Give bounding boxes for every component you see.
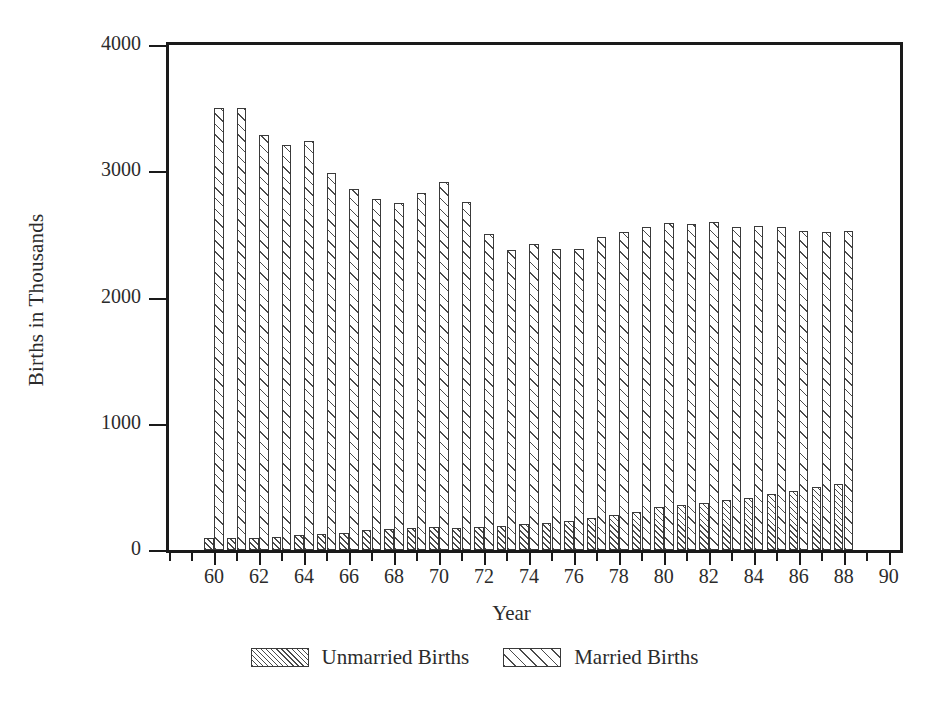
bar-unmarried-62 [249, 538, 258, 550]
x-tick-88 [844, 552, 846, 565]
bar-married-88 [844, 231, 853, 550]
x-tick-78 [619, 552, 621, 565]
bar-married-70 [439, 182, 448, 550]
x-tick-58 [169, 552, 171, 561]
bar-unmarried-75 [542, 523, 551, 550]
x-tick-63 [281, 552, 283, 561]
legend-swatch-married-icon [503, 648, 561, 667]
bar-unmarried-64 [294, 535, 303, 550]
bar-married-82 [709, 222, 718, 550]
bar-married-83 [732, 227, 741, 550]
bar-married-63 [282, 145, 291, 550]
bar-married-71 [462, 202, 471, 550]
legend-item-unmarried[interactable]: Unmarried Births [251, 645, 470, 670]
x-tick-83 [731, 552, 733, 561]
x-axis-title: Year [0, 601, 949, 626]
x-tick-65 [326, 552, 328, 561]
legend-item-married[interactable]: Married Births [503, 645, 698, 670]
bar-unmarried-67 [362, 530, 371, 550]
x-tick-69 [416, 552, 418, 561]
x-axis-title-text: Year [492, 601, 531, 625]
bar-married-64 [304, 141, 313, 550]
bar-unmarried-76 [564, 521, 573, 550]
bar-unmarried-86 [789, 491, 798, 550]
x-tick-label-90: 90 [859, 565, 919, 588]
x-tick-90 [889, 552, 891, 565]
bar-unmarried-83 [722, 500, 731, 550]
x-tick-77 [596, 552, 598, 561]
legend-label: Married Births [574, 645, 698, 670]
bar-unmarried-82 [699, 503, 708, 550]
x-tick-62 [259, 552, 261, 565]
y-tick-1000 [149, 424, 166, 426]
bar-unmarried-88 [834, 484, 843, 550]
legend-label: Unmarried Births [322, 645, 470, 670]
plot-area [166, 42, 903, 553]
x-tick-84 [754, 552, 756, 565]
bar-unmarried-79 [632, 512, 641, 550]
bar-unmarried-72 [474, 527, 483, 550]
chart-figure: Births in Thousands 01000200030004000 60… [0, 0, 949, 725]
x-tick-85 [776, 552, 778, 561]
x-tick-89 [866, 552, 868, 561]
x-tick-87 [821, 552, 823, 561]
chart-legend: Unmarried BirthsMarried Births [0, 645, 949, 670]
plot-inner [169, 45, 900, 550]
bar-unmarried-78 [609, 515, 618, 550]
bar-unmarried-61 [227, 538, 236, 550]
x-tick-72 [484, 552, 486, 565]
bar-unmarried-63 [272, 537, 281, 550]
bar-married-72 [484, 234, 493, 550]
legend-swatch-unmarried-icon [251, 648, 309, 667]
x-tick-59 [191, 552, 193, 561]
bar-married-79 [642, 227, 651, 550]
y-tick-label-0: 0 [21, 537, 141, 560]
y-tick-4000 [149, 45, 166, 47]
bar-married-66 [349, 189, 358, 550]
bar-unmarried-60 [204, 538, 213, 550]
bar-married-61 [237, 108, 246, 550]
bar-married-81 [687, 224, 696, 550]
bar-married-69 [417, 193, 426, 550]
bar-married-60 [214, 108, 223, 550]
bar-unmarried-85 [767, 494, 776, 550]
bar-married-78 [619, 232, 628, 550]
bar-married-75 [552, 249, 561, 550]
bar-married-86 [799, 231, 808, 550]
bar-unmarried-65 [317, 534, 326, 550]
bar-married-77 [597, 237, 606, 550]
bar-married-62 [259, 135, 268, 550]
x-tick-73 [506, 552, 508, 561]
x-tick-75 [551, 552, 553, 561]
bar-married-67 [372, 199, 381, 550]
y-tick-label-3000: 3000 [21, 158, 141, 181]
bar-unmarried-87 [812, 487, 821, 550]
bar-unmarried-71 [452, 528, 461, 550]
x-tick-74 [529, 552, 531, 565]
x-tick-79 [641, 552, 643, 561]
bar-married-65 [327, 173, 336, 550]
y-tick-2000 [149, 298, 166, 300]
x-tick-80 [664, 552, 666, 565]
bar-unmarried-69 [407, 528, 416, 550]
x-tick-70 [439, 552, 441, 565]
y-tick-label-2000: 2000 [21, 285, 141, 308]
bar-married-76 [574, 249, 583, 550]
bar-married-73 [507, 250, 516, 550]
bar-married-87 [822, 232, 831, 550]
bar-married-80 [664, 223, 673, 550]
bar-unmarried-84 [744, 498, 753, 550]
bar-unmarried-66 [339, 533, 348, 550]
y-tick-0 [149, 550, 166, 552]
bar-unmarried-68 [384, 529, 393, 550]
bar-married-68 [394, 203, 403, 550]
x-tick-82 [709, 552, 711, 565]
x-tick-64 [304, 552, 306, 565]
bar-married-84 [754, 226, 763, 550]
y-tick-label-1000: 1000 [21, 411, 141, 434]
bar-unmarried-73 [497, 526, 506, 550]
x-tick-86 [799, 552, 801, 565]
x-tick-60 [214, 552, 216, 565]
x-tick-67 [371, 552, 373, 561]
x-tick-61 [236, 552, 238, 561]
